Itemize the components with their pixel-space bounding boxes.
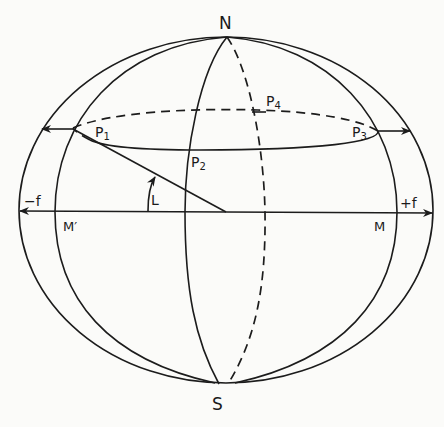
label-p1: P1 bbox=[95, 124, 110, 142]
label-p4: P4 bbox=[266, 93, 281, 111]
equator-axis-left bbox=[20, 211, 226, 212]
sphere-diagram: N S P1 P2 P3 P4 L −f +f M′ M bbox=[0, 0, 444, 427]
latitude-circle-front bbox=[90, 131, 378, 150]
label-south: S bbox=[212, 394, 223, 414]
label-m: M bbox=[374, 219, 385, 234]
label-north: N bbox=[219, 13, 232, 33]
equator-axis-right bbox=[226, 212, 432, 213]
label-p3: P3 bbox=[352, 124, 367, 142]
label-angle-l: L bbox=[151, 192, 159, 208]
latitude-circle-back bbox=[73, 110, 378, 131]
label-minus-f: −f bbox=[24, 193, 42, 209]
label-plus-f: +f bbox=[400, 195, 418, 211]
outer-sphere-outline bbox=[19, 37, 433, 383]
label-p2: P2 bbox=[191, 154, 206, 172]
central-meridian-back bbox=[227, 37, 265, 384]
meridian-m bbox=[55, 37, 227, 383]
label-m-prime: M′ bbox=[63, 219, 77, 234]
central-meridian-front bbox=[185, 37, 227, 384]
